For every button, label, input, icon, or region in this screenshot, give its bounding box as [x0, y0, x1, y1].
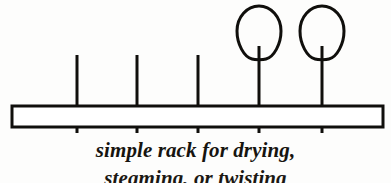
- caption-line-2: steaming, or twisting: [0, 168, 391, 183]
- drying-rack-illustration: [0, 0, 391, 183]
- loop-group: [237, 6, 344, 60]
- caption-line-2-clip: steaming, or twisting: [0, 168, 391, 183]
- rack-board: [12, 106, 383, 127]
- figure-page: simple rack for drying, steaming, or twi…: [0, 0, 391, 183]
